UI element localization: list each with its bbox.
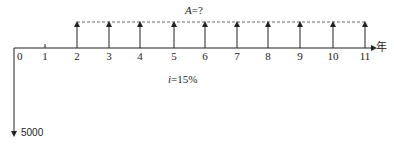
period-label-9: 9: [297, 50, 303, 62]
period-label-2: 2: [74, 50, 80, 62]
period-label-11: 11: [360, 50, 371, 62]
cash-flow-diagram: 01234567891011 A=? i=15% 年 5000: [0, 0, 394, 151]
axis-unit-label: 年: [376, 40, 387, 53]
period-label-1: 1: [42, 50, 48, 62]
interest-rate-label: i=15%: [168, 73, 197, 85]
period-label-4: 4: [137, 50, 143, 62]
annuity-label: A=?: [184, 4, 203, 16]
outflow-amount-label: 5000: [21, 127, 44, 138]
inflow-arrows: [77, 24, 365, 48]
period-label-10: 10: [328, 50, 340, 62]
period-label-8: 8: [265, 50, 271, 62]
period-label-3: 3: [106, 50, 112, 62]
period-label-5: 5: [171, 50, 177, 62]
period-label-7: 7: [234, 50, 240, 62]
period-labels: 01234567891011: [17, 50, 370, 62]
period-label-0: 0: [17, 50, 23, 62]
period-label-6: 6: [202, 50, 208, 62]
